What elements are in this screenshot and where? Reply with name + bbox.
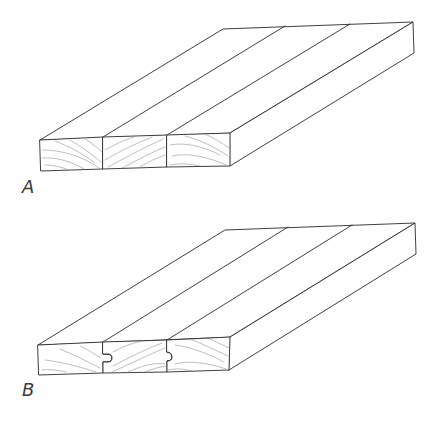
panel-a-board-3-end [167,133,230,167]
panel-b-label: B [22,379,34,400]
panel-b [38,223,416,375]
panel-a-label: A [21,176,34,197]
panel-b-board-3-end [167,337,230,372]
panel-a-board-1-end [40,137,103,171]
panel-a-board-2-end [103,135,167,169]
panel-a [40,22,414,171]
panel-b-board-2-end [103,340,172,373]
board-joint-diagram: A [0,0,436,425]
panel-b-board-1-end [38,342,112,375]
